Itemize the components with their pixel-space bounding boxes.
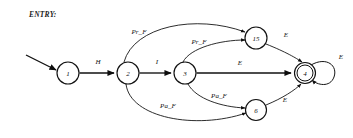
- node-2-label: 2: [126, 70, 130, 78]
- edge-n15-n4: [266, 44, 302, 62]
- node-1-label: 1: [66, 70, 70, 78]
- node-4-accepting[interactable]: 4: [295, 63, 316, 84]
- edge-label-n3-n15: Pr_F: [190, 38, 207, 46]
- edge-n2-n6: [126, 84, 246, 121]
- node-15[interactable]: 15: [245, 27, 267, 49]
- node-4-label: 4: [303, 70, 307, 78]
- node-6-label: 6: [254, 107, 258, 115]
- edge-label-n1-n2: H: [94, 58, 101, 66]
- node-1[interactable]: 1: [57, 62, 79, 84]
- state-machine-graph: 1 2 3 15 6 4 H I Pr_F Pr_F E Pa_F: [0, 0, 353, 138]
- edge-label-n6-n4: E: [282, 96, 288, 104]
- edge-label-n2-n15: Pr_F: [130, 28, 147, 36]
- node-3[interactable]: 3: [174, 62, 196, 84]
- diagram-canvas: ENTRY:: [0, 0, 353, 138]
- edge-label-n4-self: E: [338, 53, 344, 61]
- edge-label-n3-n6: Pa_F: [210, 92, 228, 100]
- node-3-label: 3: [182, 70, 187, 78]
- node-2[interactable]: 2: [117, 62, 139, 84]
- edge-label-n2-n3: I: [155, 58, 159, 66]
- edge-label-n3-n4: E: [237, 59, 243, 67]
- node-6[interactable]: 6: [246, 100, 267, 121]
- edge-label-n2-n6: Pa_F: [159, 102, 177, 110]
- node-15-label: 15: [253, 35, 261, 43]
- edge-label-n15-n4: E: [283, 31, 289, 39]
- start-arrow: [26, 55, 56, 70]
